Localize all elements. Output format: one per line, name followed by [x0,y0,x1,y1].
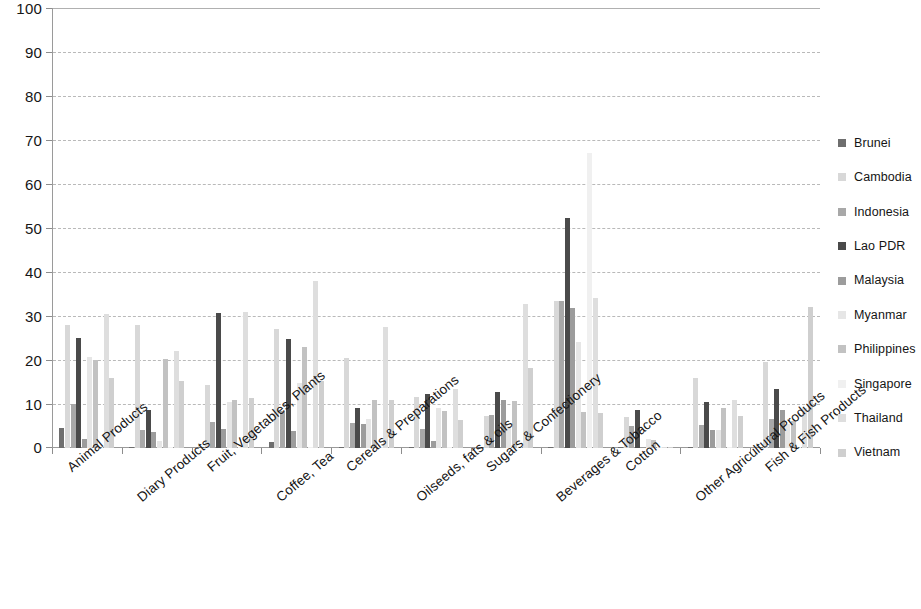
legend-swatch-icon [838,208,846,216]
bar [431,441,436,448]
legend-label: Thailand [854,412,903,425]
bar [319,381,324,448]
bar [559,301,564,448]
legend-item[interactable]: Malaysia [838,274,904,288]
legend-item[interactable]: Philippines [838,342,916,356]
legend-item[interactable]: Singapore [838,377,912,391]
legend-swatch-icon [838,311,846,319]
y-tick-label: 90 [25,45,42,60]
bar [570,308,575,448]
bar-chart: 0102030405060708090100 Animal ProductsDi… [0,0,921,609]
legend-item[interactable]: Lao PDR [838,239,905,253]
legend: BruneiCambodiaIndonesiaLao PDRMalaysiaMy… [838,136,921,484]
bar [151,432,156,448]
bar [598,413,603,448]
legend-label: Singapore [854,378,912,391]
bar [135,325,140,448]
bar [355,408,360,448]
bar [554,301,559,448]
bar [587,153,592,448]
bar [216,313,221,448]
bar [71,404,76,448]
bar [157,441,162,448]
legend-swatch-icon [838,345,846,353]
bar [581,412,586,448]
bar [458,420,463,448]
legend-swatch-icon [838,277,846,285]
bar [87,357,92,448]
x-axis-labels: Animal ProductsDiary ProductsFruit, Vege… [0,452,921,609]
bar [738,416,743,448]
y-axis: 0102030405060708090100 [0,0,52,456]
bar-groups [52,8,820,448]
bar [693,378,698,448]
bar [732,400,737,448]
legend-label: Myanmar [854,309,907,322]
y-tick-label: 40 [25,265,42,280]
bar [274,329,279,448]
y-tick-label: 10 [25,397,42,412]
bar [146,410,151,448]
legend-item[interactable]: Indonesia [838,205,909,219]
legend-item[interactable]: Cambodia [838,170,912,184]
bar-group [331,8,401,448]
bar [699,425,704,448]
y-tick-label: 70 [25,133,42,148]
legend-label: Indonesia [854,206,909,219]
y-tick-label: 100 [16,1,42,16]
legend-label: Cambodia [854,171,912,184]
bar [420,429,425,448]
bar [76,338,81,448]
bar [59,428,64,448]
legend-label: Vietnam [854,446,900,459]
legend-item[interactable]: Thailand [838,411,903,425]
bar-group [750,8,820,448]
bar-group [122,8,192,448]
bar [179,381,184,448]
bar [174,351,179,448]
bar-group [192,8,262,448]
legend-swatch-icon [838,449,846,457]
y-tick-label: 30 [25,309,42,324]
legend-item[interactable]: Myanmar [838,308,907,322]
bar [453,389,458,448]
legend-swatch-icon [838,414,846,422]
legend-item[interactable]: Vietnam [838,446,900,460]
legend-swatch-icon [838,242,846,250]
bar-group [611,8,681,448]
legend-label: Philippines [854,343,916,356]
bar-group [52,8,122,448]
legend-swatch-icon [838,380,846,388]
bar [65,325,70,448]
bar [442,411,447,448]
bar [716,430,721,448]
bar [313,281,318,448]
bar [163,359,168,448]
bar-group [680,8,750,448]
bar [436,408,441,448]
y-tick-label: 80 [25,89,42,104]
legend-label: Lao PDR [854,240,905,253]
bar [291,431,296,448]
y-tick-label: 50 [25,221,42,236]
bar-group [471,8,541,448]
legend-label: Malaysia [854,274,904,287]
bar [140,430,145,448]
x-axis-category-label: Coffee, Tea [274,449,337,505]
bar [721,408,726,448]
bar [350,423,355,448]
bar [710,430,715,448]
bar [704,402,709,448]
bar [344,358,349,448]
y-tick-label: 20 [25,353,42,368]
legend-item[interactable]: Brunei [838,136,891,150]
y-tick-label: 60 [25,177,42,192]
legend-swatch-icon [838,139,846,147]
legend-swatch-icon [838,173,846,181]
legend-label: Brunei [854,137,891,150]
